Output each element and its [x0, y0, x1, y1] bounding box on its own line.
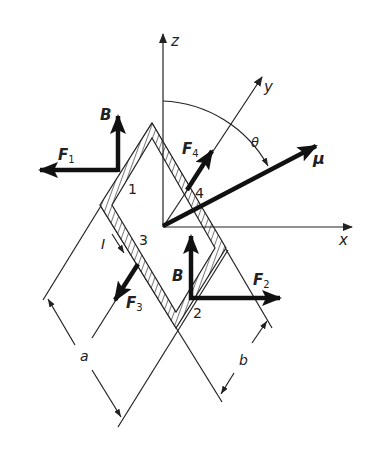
z-axis-label: z: [170, 32, 180, 50]
field-b-label-bottom: B: [172, 267, 183, 285]
force-f2-group: B F2: [172, 236, 280, 300]
force-f4-label: F4: [182, 140, 199, 159]
dimension-b-label: b: [239, 352, 248, 368]
side-3-label: 3: [139, 232, 148, 248]
field-b-label-top: B: [100, 106, 111, 124]
force-f1-group: B F1: [40, 106, 118, 172]
side-1-label: 1: [128, 181, 137, 197]
force-f2-label: F2: [253, 271, 270, 290]
dimension-a-label: a: [80, 348, 89, 364]
side-2-label: 2: [193, 305, 202, 321]
theta-label: θ: [251, 135, 259, 150]
side-4-label: 4: [195, 185, 204, 201]
theta-angle: θ: [163, 101, 268, 166]
y-axis-label: y: [263, 78, 274, 96]
force-f1-label: F1: [58, 146, 75, 165]
mu-label: μ: [312, 149, 325, 168]
current-loop-diagram: z y x θ μ B F1 F4 B F2 F3 I 1 2: [0, 0, 373, 455]
dimension-a: a: [48, 299, 121, 417]
current-label: I: [101, 236, 105, 252]
diagram-canvas: z y x θ μ B F1 F4 B F2 F3 I 1 2: [0, 0, 373, 455]
dimension-b: b: [221, 321, 267, 394]
force-f3-label: F3: [126, 294, 143, 313]
x-axis-label: x: [338, 231, 348, 249]
